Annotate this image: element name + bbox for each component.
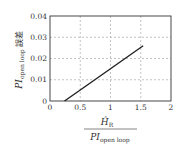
svg-text:PIopen loop誤差: PIopen loop誤差 [14, 31, 26, 89]
x-label-numerator-sub: R [109, 121, 114, 128]
y-label-main: PI [14, 79, 24, 90]
y-axis-label: PIopen loop誤差 [14, 31, 26, 89]
y-tick-label: 0.01 [30, 75, 47, 84]
y-tick-label: 0.02 [30, 54, 47, 63]
y-tick-label: 0.03 [30, 33, 47, 42]
y-axis: 0 0.01 0.02 0.03 0.04 [30, 12, 47, 106]
x-label-denominator: PI [89, 132, 100, 142]
x-tick-label: 1 [108, 103, 113, 112]
y-tick-label: 0 [42, 97, 47, 106]
y-label-suffix: 誤差 [14, 31, 24, 47]
line-chart: 0 0.01 0.02 0.03 0.04 0 0.5 1 1.5 2 PIop… [0, 0, 183, 148]
y-label-sub: open loop [18, 49, 26, 79]
x-tick-label: 0 [48, 103, 53, 112]
data-line [65, 46, 144, 101]
x-label-numerator: Ĥ [100, 116, 109, 127]
x-axis-label: ĤR PIopen loop [84, 116, 137, 144]
svg-text:PIopen loop: PIopen loop [89, 132, 130, 144]
x-tick-label: 0.5 [74, 103, 86, 112]
y-tick-label: 0.04 [30, 12, 47, 21]
svg-text:ĤR: ĤR [100, 116, 114, 128]
x-tick-label: 1.5 [135, 103, 147, 112]
x-axis: 0 0.5 1 1.5 2 [48, 103, 174, 112]
x-tick-label: 2 [169, 103, 174, 112]
x-label-denominator-sub: open loop [100, 136, 130, 144]
grid [50, 16, 171, 101]
